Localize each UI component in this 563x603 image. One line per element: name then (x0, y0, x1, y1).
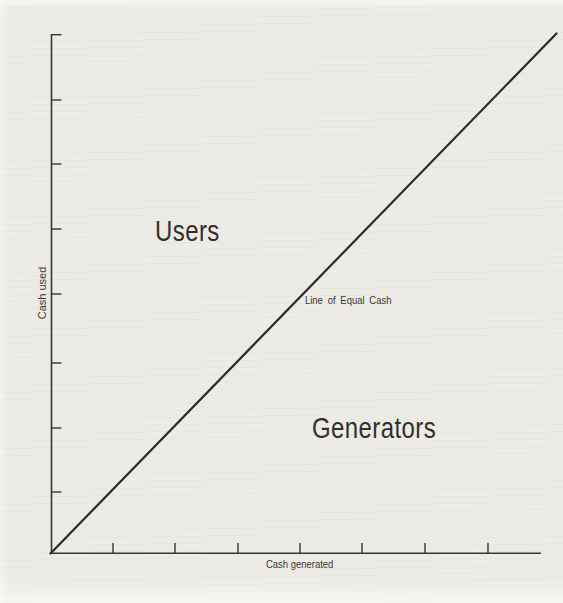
cash-chart-canvas (0, 0, 563, 603)
x-axis-label: Cash generated (266, 559, 333, 570)
equal-cash-line-label: Line of Equal Cash (305, 295, 391, 306)
y-axis (51, 34, 62, 554)
y-axis-ticks (52, 100, 62, 492)
equal-cash-diagonal-line (51, 34, 557, 554)
y-axis-label: Cash used (37, 267, 48, 320)
scanned-chart-page: Users Generators Line of Equal Cash Cash… (0, 0, 563, 603)
users-region-label: Users (155, 216, 220, 246)
x-axis-ticks (113, 543, 488, 553)
generators-region-label: Generators (312, 413, 436, 443)
x-axis (50, 543, 558, 553)
